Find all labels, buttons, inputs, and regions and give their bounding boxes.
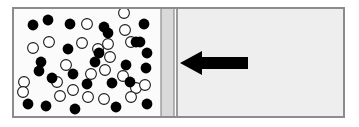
filled-particle	[65, 19, 76, 30]
open-particle	[44, 37, 55, 48]
diagram-canvas	[0, 0, 359, 127]
open-particle	[103, 39, 114, 50]
filled-particle	[111, 102, 122, 113]
open-particle	[83, 92, 94, 103]
filled-particle	[82, 79, 93, 90]
filled-particle	[125, 77, 136, 88]
open-particle	[28, 43, 39, 54]
open-particle	[100, 65, 111, 76]
filled-particle	[141, 63, 152, 74]
filled-particle	[107, 78, 118, 89]
filled-particle	[23, 99, 34, 110]
filled-particle	[121, 60, 132, 71]
movable-partition	[161, 9, 174, 116]
filled-particle	[34, 66, 45, 77]
filled-particle	[90, 57, 101, 68]
open-particle	[99, 94, 110, 105]
open-particle	[55, 91, 66, 102]
open-particle	[18, 87, 29, 98]
filled-particle	[135, 37, 146, 48]
filled-particle	[139, 19, 150, 30]
open-particle	[126, 92, 137, 103]
open-particle	[119, 8, 130, 19]
filled-particle	[41, 101, 52, 112]
gas-container-diagram	[0, 0, 359, 127]
open-particle	[105, 52, 116, 63]
filled-particle	[43, 15, 54, 26]
partition-inner-edge	[176, 9, 178, 116]
open-particle	[77, 38, 88, 49]
filled-particle	[47, 73, 58, 84]
open-particle	[68, 85, 79, 96]
filled-particle	[68, 69, 79, 80]
filled-particle	[70, 104, 81, 115]
filled-particle	[142, 48, 153, 59]
open-particle	[120, 25, 131, 36]
open-particle	[82, 19, 93, 30]
open-particle	[61, 60, 72, 71]
filled-particle	[142, 99, 153, 110]
open-particle	[86, 69, 97, 80]
open-particle	[19, 77, 30, 88]
filled-particle	[36, 57, 47, 68]
open-particle	[140, 80, 151, 91]
filled-particle	[28, 20, 39, 31]
filled-particle	[63, 44, 74, 55]
filled-particle	[103, 28, 114, 39]
